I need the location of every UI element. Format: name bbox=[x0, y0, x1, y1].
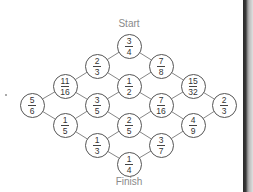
fraction-node-1-4[interactable]: 14 bbox=[117, 152, 142, 177]
numerator: 1 bbox=[63, 116, 68, 124]
fraction-node-15-32[interactable]: 1532 bbox=[181, 74, 206, 99]
numerator: 7 bbox=[159, 57, 164, 65]
fraction-node-1-3[interactable]: 13 bbox=[85, 133, 110, 158]
fraction-node-1-2[interactable]: 12 bbox=[117, 74, 142, 99]
numerator: 4 bbox=[191, 116, 196, 124]
numerator: 3 bbox=[127, 37, 132, 45]
denominator: 3 bbox=[95, 68, 100, 76]
denominator: 16 bbox=[156, 107, 165, 115]
denominator: 5 bbox=[127, 127, 132, 135]
denominator: 9 bbox=[191, 127, 196, 135]
numerator: 7 bbox=[159, 96, 164, 104]
denominator: 32 bbox=[188, 88, 197, 96]
fraction-node-11-16[interactable]: 1116 bbox=[53, 74, 78, 99]
numerator: 1 bbox=[95, 136, 100, 144]
denominator: 7 bbox=[159, 147, 164, 155]
denominator: 5 bbox=[63, 127, 68, 135]
numerator: 5 bbox=[30, 96, 35, 104]
fraction-node-2-3[interactable]: 23 bbox=[85, 54, 110, 79]
numerator: 1 bbox=[127, 77, 132, 85]
numerator: 3 bbox=[159, 136, 164, 144]
fraction-node-3-4[interactable]: 34 bbox=[117, 34, 142, 59]
finish-label: Finish bbox=[116, 176, 143, 187]
fraction-node-1-5[interactable]: 15 bbox=[53, 113, 78, 138]
fraction-path-diagram: Start Finish 342378111612153256357162315… bbox=[0, 0, 253, 192]
denominator: 8 bbox=[159, 68, 164, 76]
fraction-node-3-5[interactable]: 35 bbox=[85, 93, 110, 118]
numerator: 2 bbox=[222, 96, 227, 104]
denominator: 4 bbox=[127, 166, 132, 174]
stray-mark bbox=[5, 94, 7, 96]
fraction-node-2-5[interactable]: 25 bbox=[117, 113, 142, 138]
numerator: 1 bbox=[127, 155, 132, 163]
fraction-node-7-16[interactable]: 716 bbox=[149, 93, 174, 118]
numerator: 3 bbox=[95, 96, 100, 104]
fraction-node-4-9[interactable]: 49 bbox=[181, 113, 206, 138]
fraction-node-5-6[interactable]: 56 bbox=[20, 93, 45, 118]
denominator: 4 bbox=[127, 48, 132, 56]
denominator: 3 bbox=[95, 147, 100, 155]
numerator: 11 bbox=[61, 77, 70, 85]
denominator: 2 bbox=[127, 88, 132, 96]
numerator: 2 bbox=[95, 57, 100, 65]
denominator: 16 bbox=[60, 88, 69, 96]
denominator: 6 bbox=[30, 107, 35, 115]
denominator: 3 bbox=[222, 107, 227, 115]
fraction-node-7-8[interactable]: 78 bbox=[149, 54, 174, 79]
denominator: 5 bbox=[95, 107, 100, 115]
page-edge-shadow bbox=[243, 0, 253, 192]
fraction-node-3-7[interactable]: 37 bbox=[149, 133, 174, 158]
numerator: 15 bbox=[188, 77, 197, 85]
numerator: 2 bbox=[127, 116, 132, 124]
fraction-node-2-3[interactable]: 23 bbox=[212, 93, 237, 118]
start-label: Start bbox=[118, 18, 139, 29]
